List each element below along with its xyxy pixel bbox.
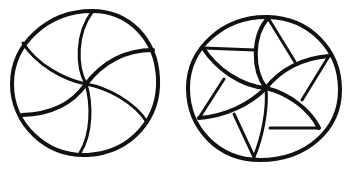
chord-bottom-left <box>234 114 254 157</box>
chord-right <box>302 56 329 100</box>
figure: Two hand-drawn circular line diagrams: a… <box>0 0 346 170</box>
arm-upper-left <box>23 43 86 84</box>
arm-lower-right <box>86 84 147 122</box>
arm-lower-left <box>22 84 86 115</box>
arm-right-lower <box>266 88 319 128</box>
arm-top <box>256 18 268 88</box>
spiral-pinwheel-diagram <box>12 11 158 155</box>
star-pinwheel-diagram <box>188 17 340 160</box>
chord-top-right <box>268 18 295 62</box>
arm-bottom <box>80 84 90 153</box>
arm-top <box>79 12 92 84</box>
chord-top-left <box>203 48 255 50</box>
chord-left <box>199 79 224 118</box>
arm-upper-right <box>86 50 153 84</box>
